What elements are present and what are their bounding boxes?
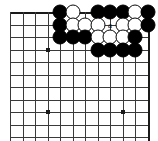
go-board[interactable]: a [0, 0, 158, 141]
board-hline [10, 112, 148, 113]
board-hline [10, 75, 148, 76]
board-vline [48, 12, 49, 141]
black-stone[interactable] [128, 42, 143, 57]
star-point [46, 110, 50, 114]
board-hline [10, 100, 148, 101]
board-vline [23, 12, 24, 141]
board-hline [10, 62, 148, 63]
star-point [46, 48, 50, 52]
board-hline [10, 87, 148, 88]
board-hline [10, 125, 148, 126]
board-hline [10, 137, 148, 138]
point-marker-a[interactable]: a [103, 20, 117, 29]
black-stone[interactable] [140, 17, 155, 32]
go-diagram-screenshot: a [0, 0, 158, 141]
board-vline [10, 12, 11, 141]
star-point [121, 110, 125, 114]
board-vline [35, 12, 36, 141]
